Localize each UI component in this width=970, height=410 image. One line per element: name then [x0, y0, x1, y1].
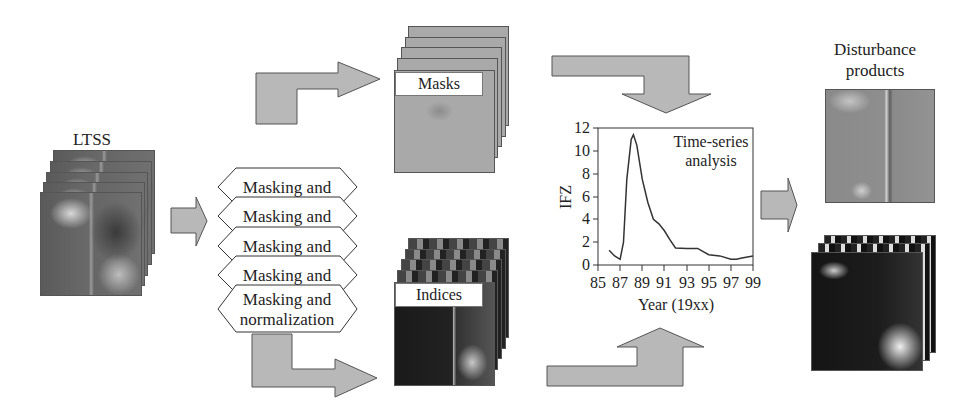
disturbance-map: [825, 89, 935, 203]
arrow-bent-down-icon: [552, 56, 711, 113]
chart-y-axis-label: IFZ: [557, 185, 574, 209]
arrow-right-output-icon: [761, 178, 797, 232]
svg-text:91: 91: [656, 274, 672, 291]
svg-text:95: 95: [701, 274, 717, 291]
svg-text:87: 87: [612, 274, 628, 291]
arrow-bent-up-icon: [547, 328, 704, 386]
svg-text:89: 89: [634, 274, 650, 291]
svg-text:4: 4: [582, 210, 590, 227]
svg-text:97: 97: [723, 274, 739, 291]
svg-text:2: 2: [582, 233, 590, 250]
chart-x-tick-labels: 85 87 89 91 93 95 97 99: [590, 274, 761, 291]
svg-text:10: 10: [574, 142, 590, 159]
svg-text:0: 0: [582, 256, 590, 273]
chart-annotation-line1: Time-series: [674, 133, 749, 150]
processing-step-5-label-line1: Masking and: [243, 290, 332, 309]
time-series-chart: 0 2 4 6 8 10 12 85 87 89 91 93 95 97 99 …: [557, 119, 761, 314]
svg-text:6: 6: [582, 188, 590, 205]
processing-step-3-label: Masking and: [243, 237, 332, 256]
svg-text:12: 12: [574, 119, 590, 136]
processing-step-5: Masking and normalization: [218, 285, 357, 332]
chart-x-axis-label: Year (19xx): [638, 296, 714, 314]
chart-y-ticks: [593, 128, 598, 265]
chart-annotation-line2: analysis: [685, 152, 737, 170]
svg-text:85: 85: [590, 274, 606, 291]
outputs-title-line1: Disturbance: [820, 40, 930, 60]
processing-step-5-label-line2: normalization: [240, 310, 335, 329]
processing-step-1-label: Masking and: [243, 178, 332, 197]
indices-label: Indices: [395, 283, 483, 307]
outputs-title-line2: products: [820, 61, 930, 81]
arrow-bent-up-right-icon: [256, 62, 380, 124]
chart-y-tick-labels: 0 2 4 6 8 10 12: [574, 119, 590, 273]
chart-x-ticks: [598, 265, 753, 271]
masks-label: Masks: [395, 72, 483, 96]
arrow-right-icon: [171, 197, 207, 246]
processing-step-4-label: Masking and: [243, 266, 332, 285]
disturbance-frame-1: [811, 252, 923, 371]
svg-text:93: 93: [679, 274, 695, 291]
processing-step-stack: Masking and Masking and Masking and Mask…: [218, 168, 357, 332]
processing-step-2-label: Masking and: [243, 207, 332, 226]
arrow-bent-down-right-icon: [252, 334, 377, 397]
svg-text:8: 8: [582, 165, 590, 182]
svg-text:99: 99: [745, 274, 761, 291]
